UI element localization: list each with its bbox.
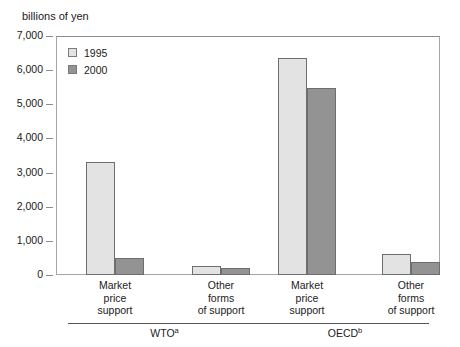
y-tick-label: 1,000 [17,234,43,247]
y-tick-mark [46,138,53,139]
category-line: price [252,292,362,305]
y-tick-label: 5,000 [17,97,43,110]
bar-1995-cat0 [86,162,115,275]
bar-1995-cat1 [192,266,221,275]
y-tick-label: 6,000 [17,63,43,76]
category-line: support [60,304,170,317]
y-tick-mark [46,207,53,208]
group-name: OECD [328,327,358,339]
category-label-oecd-other: Other forms of support [356,279,460,317]
y-tick-label: 7,000 [17,29,43,42]
bar-2000-cat3 [411,262,440,275]
group-label-wto: WTOa [68,327,261,340]
group-footnote: a [175,326,179,335]
y-axis: 7,000 6,000 5,000 4,000 3,000 2,000 1,00… [0,0,56,347]
category-line: forms [356,292,460,305]
bar-1995-cat3 [382,254,411,275]
group-name: WTO [150,327,174,339]
y-tick-label: 3,000 [17,166,43,179]
y-tick-mark [46,241,53,242]
y-tick-label: 2,000 [17,200,43,213]
bar-2000-cat1 [221,268,250,275]
bar-1995-cat2 [278,58,307,275]
group-rule-oecd [261,323,429,324]
bar-chart: billions of yen 7,000 6,000 5,000 4,000 … [0,0,460,347]
y-tick-mark [46,173,53,174]
category-line: Other [356,279,460,292]
bars-layer [56,36,440,275]
category-line: of support [356,304,460,317]
category-label-wto-market: Market price support [60,279,170,317]
category-axis: Market price support Other forms of supp… [56,276,440,347]
category-line: Market [252,279,362,292]
y-tick-mark [46,36,53,37]
y-tick-mark [46,275,53,276]
category-line: Market [60,279,170,292]
group-rule-wto [68,323,261,324]
category-line: support [252,304,362,317]
bar-2000-cat2 [307,88,336,275]
y-tick-mark [46,70,53,71]
bar-2000-cat0 [115,258,144,275]
y-tick-mark [46,104,53,105]
category-label-oecd-market: Market price support [252,279,362,317]
group-label-oecd: OECDb [261,327,429,340]
y-tick-label: 0 [37,268,43,281]
group-footnote: b [358,326,362,335]
category-line: price [60,292,170,305]
y-tick-label: 4,000 [17,131,43,144]
